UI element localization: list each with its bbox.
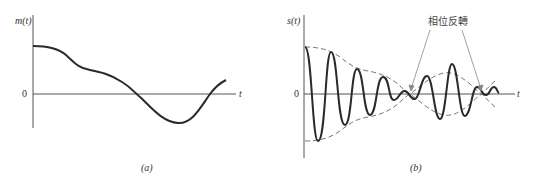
panel-a-y-label: m(t) xyxy=(15,16,32,26)
figure-canvas xyxy=(0,0,533,183)
panel-b-caption: (b) xyxy=(410,163,422,173)
panel-b-y-label: s(t) xyxy=(287,16,300,26)
panel-b-zero-label: 0 xyxy=(294,89,299,99)
panel-a-zero-label: 0 xyxy=(22,89,27,99)
panel-b-x-label: t xyxy=(517,89,520,99)
phase-reversal-annotation: 相位反轉 xyxy=(428,17,468,27)
phase-reversal-arrows xyxy=(409,30,483,91)
panel-a-caption: (a) xyxy=(141,163,153,173)
message-signal-curve xyxy=(33,46,226,123)
panel-a-axes xyxy=(33,15,236,128)
panel-a-x-label: t xyxy=(239,89,242,99)
